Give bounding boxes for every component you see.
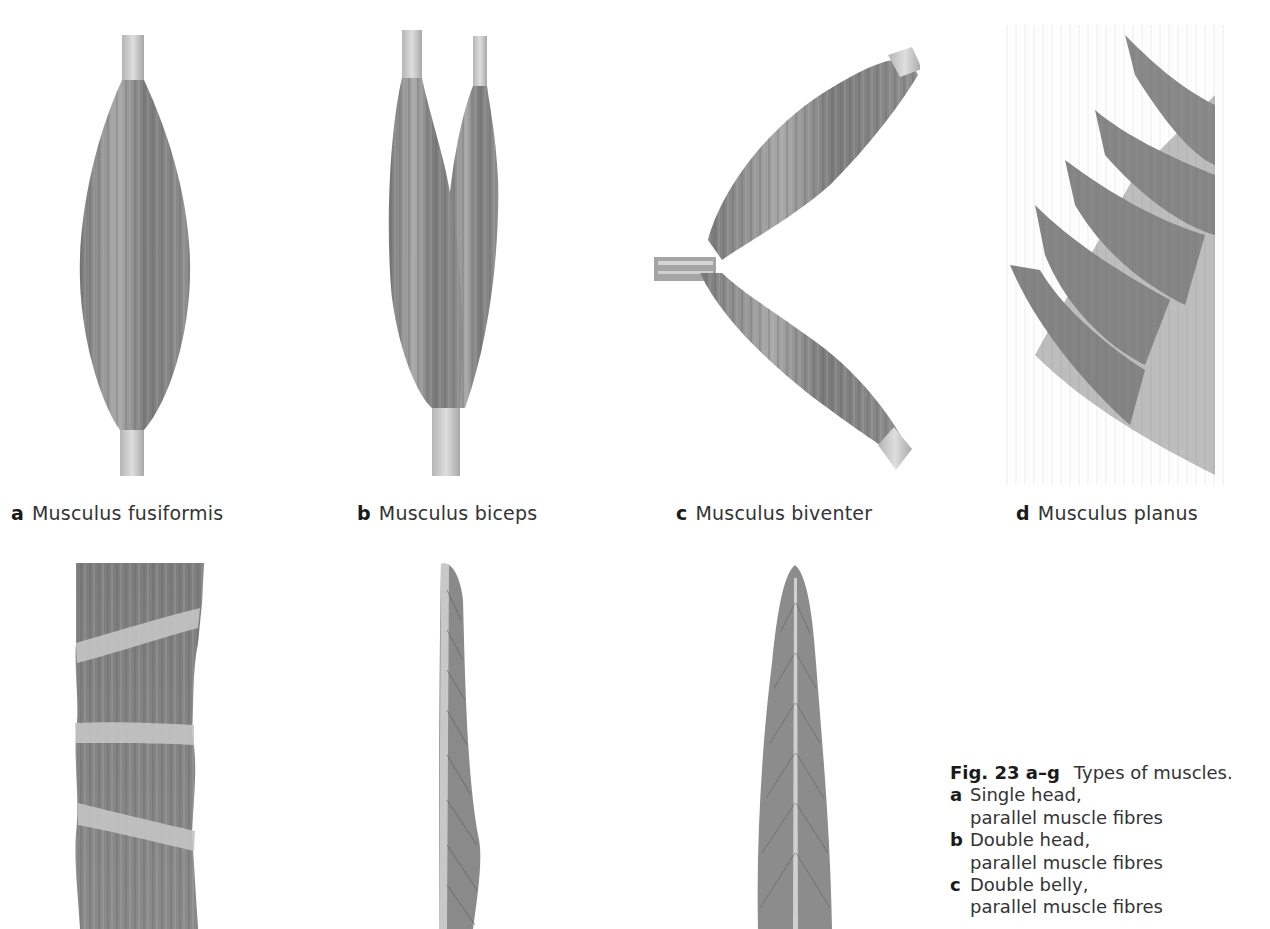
- figure-d-label: dMusculus planus: [1016, 502, 1198, 524]
- figure-e-segmented-muscle-illustration: [70, 563, 210, 929]
- caption-item-a: a Single head,parallel muscle fibres: [950, 784, 1233, 829]
- figure-number: Fig. 23 a–g: [950, 762, 1060, 783]
- figure-caption: Fig. 23 a–gTypes of muscles. a Single he…: [950, 762, 1233, 919]
- figure-b-biceps-illustration: [380, 28, 510, 478]
- caption-item-c: c Double belly,parallel muscle fibres: [950, 874, 1233, 919]
- figure-g-bipennate-illustration: [750, 563, 840, 929]
- figure-d-planus-illustration: [1005, 25, 1225, 485]
- caption-title: Types of muscles.: [1074, 762, 1233, 783]
- figure-a-label: aMusculus fusiformis: [11, 502, 223, 524]
- figure-a-fusiformis-illustration: [70, 30, 210, 480]
- figure-f-unipennate-illustration: [435, 560, 495, 929]
- caption-title-row: Fig. 23 a–gTypes of muscles.: [950, 762, 1233, 784]
- figure-b-label: bMusculus biceps: [357, 502, 537, 524]
- figure-c-label: cMusculus biventer: [676, 502, 872, 524]
- caption-item-b: b Double head,parallel muscle fibres: [950, 829, 1233, 874]
- figure-c-biventer-illustration: [650, 25, 920, 485]
